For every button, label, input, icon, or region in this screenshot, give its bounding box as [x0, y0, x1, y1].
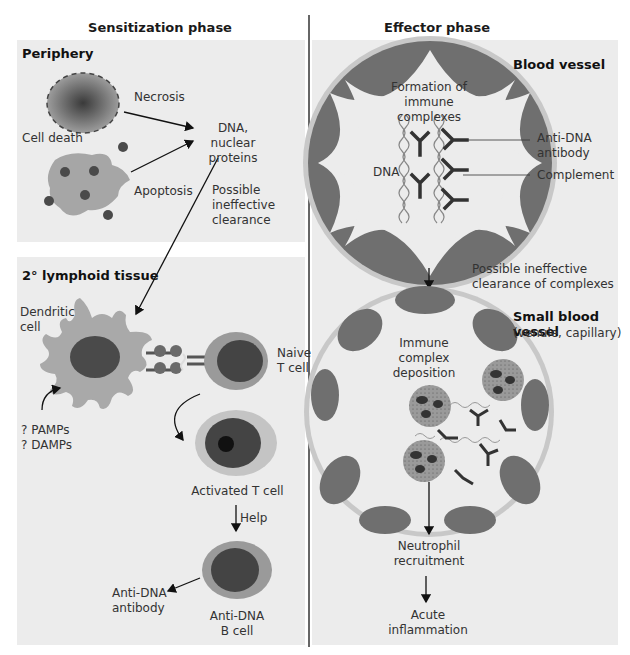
deposition-line2: deposition — [374, 366, 474, 381]
naive-t-cell-label: Naive T cell — [277, 346, 311, 376]
dendritic-line1: Dendritic — [20, 305, 75, 320]
clearance-line1: Possible — [212, 183, 275, 198]
mhc-tcr-interaction-icon — [146, 345, 205, 374]
periphery-title: Periphery — [22, 46, 93, 61]
cell-death-label: Cell death — [22, 131, 83, 146]
neutrophil-recruitment-label: Neutrophil recruitment — [384, 539, 474, 569]
necrotic-cell-icon — [47, 73, 119, 133]
apoptosis-label: Apoptosis — [134, 184, 193, 199]
neutrophil-line2: recruitment — [384, 554, 474, 569]
naive-line1: Naive — [277, 346, 311, 361]
possible-clearance-label: Possible ineffective clearance — [212, 183, 275, 228]
inflammation-line1: Acute — [380, 608, 476, 623]
pamps-damps-label: ? PAMPs ? DAMPs — [21, 423, 72, 453]
dendritic-cell-label: Dendritic cell — [20, 305, 75, 335]
dendritic-line2: cell — [20, 320, 75, 335]
naive-t-cell-icon — [204, 332, 268, 390]
immune-complex-deposition-label: Immune complex deposition — [374, 336, 474, 381]
r-clearance-line1: Possible ineffective — [472, 262, 614, 277]
r-antibody-line1: Anti-DNA — [537, 131, 592, 146]
antibody-line1: Anti-DNA — [112, 586, 167, 601]
dna-line2: proteins — [196, 151, 270, 166]
small-vessel-subtitle: (venule, capillary) — [513, 326, 621, 341]
anti-dna-antibody-right-label: Anti-DNA antibody — [537, 131, 592, 161]
blood-vessel-title: Blood vessel — [513, 57, 605, 72]
lymphoid-tissue-title: 2° lymphoid tissue — [22, 268, 159, 283]
blood-vessel-icon — [303, 36, 557, 290]
dna-label: DNA — [373, 165, 399, 180]
clearance-line2: ineffective — [212, 198, 275, 213]
complement-label: Complement — [537, 168, 614, 183]
effector-phase-title: Effector phase — [357, 20, 517, 35]
clearance-line3: clearance — [212, 213, 275, 228]
inflammation-line2: inflammation — [380, 623, 476, 638]
anti-dna-antibody-label: Anti-DNA antibody — [112, 586, 167, 616]
pamps-label: ? PAMPs — [21, 423, 72, 438]
anti-dna-b-cell-label: Anti-DNA B cell — [200, 609, 274, 639]
damps-label: ? DAMPs — [21, 438, 72, 453]
acute-inflammation-label: Acute inflammation — [380, 608, 476, 638]
r-antibody-line2: antibody — [537, 146, 592, 161]
naive-line2: T cell — [277, 361, 311, 376]
dna-nuclear-proteins-label: DNA, nuclear proteins — [196, 121, 270, 166]
bcell-line2: B cell — [200, 624, 274, 639]
necrosis-label: Necrosis — [134, 90, 185, 105]
ineffective-clearance-complexes-label: Possible ineffective clearance of comple… — [472, 262, 614, 292]
r-clearance-line2: clearance of complexes — [472, 277, 614, 292]
activated-t-cell-icon — [195, 410, 277, 476]
deposition-line1: Immune complex — [374, 336, 474, 366]
neutrophil-line1: Neutrophil — [384, 539, 474, 554]
sensitization-phase-title: Sensitization phase — [60, 20, 260, 35]
antibody-line2: antibody — [112, 601, 167, 616]
b-cell-icon — [202, 541, 272, 599]
formation-line2: immune complexes — [374, 95, 484, 125]
activated-t-cell-label: Activated T cell — [190, 484, 285, 499]
formation-line1: Formation of — [374, 80, 484, 95]
apoptotic-cell-icon — [44, 142, 130, 220]
dna-line1: DNA, nuclear — [196, 121, 270, 151]
formation-label: Formation of immune complexes — [374, 80, 484, 125]
bcell-line1: Anti-DNA — [200, 609, 274, 624]
help-label: Help — [240, 511, 267, 526]
